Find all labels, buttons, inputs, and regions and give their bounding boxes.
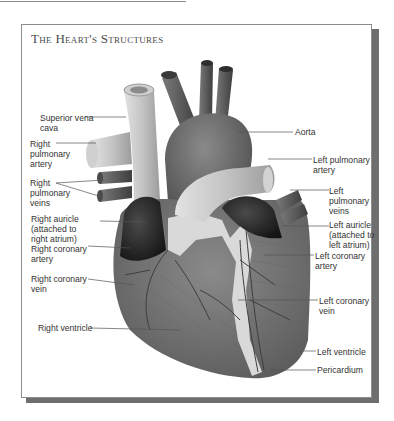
- label-right-coronary-artery: Right coronary artery: [31, 244, 87, 264]
- label-left-coronary-vein: Left coronary vein: [319, 296, 369, 316]
- label-right-ventricle: Right ventricle: [38, 323, 92, 333]
- label-aorta: Aorta: [295, 127, 316, 137]
- label-right-auricle: Right auricle (attached to right atrium): [31, 214, 79, 244]
- label-left-pulmonary-veins: Left pulmonary veins: [329, 186, 369, 216]
- label-pericardium: Pericardium: [317, 365, 363, 375]
- right-auricle-shape: [120, 197, 166, 261]
- label-right-pulmonary-artery: Right pulmonary artery: [30, 139, 70, 169]
- label-right-coronary-vein: Right coronary vein: [31, 274, 87, 294]
- label-left-auricle: Left auricle (attached to left atrium): [329, 220, 374, 250]
- label-superior-vena-cava: Superior vena cava: [40, 113, 94, 133]
- label-left-coronary-artery: Left coronary artery: [315, 251, 365, 271]
- label-left-pulmonary-artery: Left pulmonary artery: [313, 155, 370, 175]
- label-left-ventricle: Left ventricle: [317, 347, 366, 357]
- label-right-pulmonary-veins: Right pulmonary veins: [30, 178, 70, 208]
